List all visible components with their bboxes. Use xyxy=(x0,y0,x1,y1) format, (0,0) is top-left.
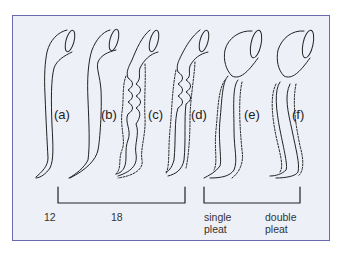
bracket-pleats xyxy=(204,187,300,203)
tube-c xyxy=(116,29,161,178)
bracket-18 xyxy=(58,187,185,203)
tube-a xyxy=(36,29,77,178)
panel-label-f: (f) xyxy=(292,108,304,121)
panel-label-d: (d) xyxy=(191,108,207,121)
caption-double-1: double xyxy=(265,211,297,223)
tube-e xyxy=(204,29,264,178)
caption-18: 18 xyxy=(111,211,123,223)
tube-f xyxy=(270,29,316,178)
panel-label-e: (e) xyxy=(244,108,260,121)
caption-single-2: pleat xyxy=(204,223,227,235)
panel-label-a: (a) xyxy=(54,108,70,121)
panel-label-c: (c) xyxy=(148,108,163,121)
caption-single-1: single xyxy=(204,211,231,223)
panel-label-b: (b) xyxy=(101,108,117,121)
tube-d xyxy=(166,29,211,176)
caption-double-2: pleat xyxy=(265,223,288,235)
tube-b xyxy=(69,28,121,178)
caption-12: 12 xyxy=(44,211,56,223)
